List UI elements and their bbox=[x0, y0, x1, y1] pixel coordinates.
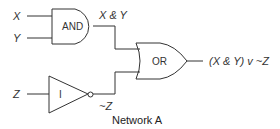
wire-not-out bbox=[93, 72, 140, 94]
not-bubble bbox=[88, 92, 93, 97]
or-gate-label: OR bbox=[152, 56, 167, 67]
and-gate-label: AND bbox=[62, 21, 83, 32]
input-y-label: Y bbox=[13, 32, 21, 44]
not-gate bbox=[49, 76, 88, 113]
or-output-label: (X & Y) v ~Z bbox=[209, 55, 270, 67]
input-z-label: Z bbox=[12, 88, 21, 100]
logic-network-diagram: X Y Z AND I OR X & Y ~Z (X & Y) v ~Z Net… bbox=[0, 0, 280, 129]
not-gate-label: I bbox=[59, 89, 62, 100]
input-x-label: X bbox=[12, 10, 21, 22]
not-output-label: ~Z bbox=[99, 100, 113, 112]
wire-and-out bbox=[93, 26, 140, 49]
diagram-caption: Network A bbox=[112, 114, 163, 126]
and-output-label: X & Y bbox=[98, 9, 128, 21]
